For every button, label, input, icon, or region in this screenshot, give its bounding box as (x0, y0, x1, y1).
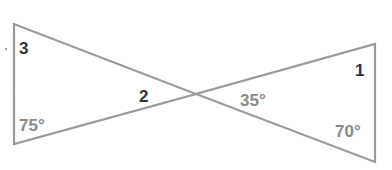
angle-70-label: 70° (335, 122, 361, 141)
angle-75-label: 75° (19, 116, 45, 135)
stray-dot (5, 48, 7, 50)
right-triangle (196, 44, 375, 162)
angle-35-label: 35° (240, 91, 266, 110)
vertical-angles-diagram: 3 2 75° 1 35° 70° (0, 0, 392, 170)
angle-1-label: 1 (355, 61, 364, 80)
angle-2-label: 2 (139, 87, 148, 106)
angle-3-label: 3 (19, 39, 28, 58)
